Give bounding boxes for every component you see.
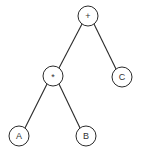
node-label: C xyxy=(119,72,126,82)
node-times: * xyxy=(43,66,63,86)
node-label: * xyxy=(51,72,55,82)
edges xyxy=(25,24,116,128)
node-label: B xyxy=(83,131,89,141)
node-c: C xyxy=(112,67,132,87)
edge-times-b xyxy=(59,84,80,128)
node-a: A xyxy=(9,126,29,146)
node-b: B xyxy=(76,126,96,146)
node-plus: + xyxy=(78,6,98,26)
expression-tree-diagram: + * C A B xyxy=(0,0,144,158)
node-label: + xyxy=(85,11,90,21)
edge-plus-c xyxy=(94,24,116,69)
edge-times-a xyxy=(25,84,47,128)
edge-plus-times xyxy=(59,24,82,68)
node-label: A xyxy=(16,131,22,141)
